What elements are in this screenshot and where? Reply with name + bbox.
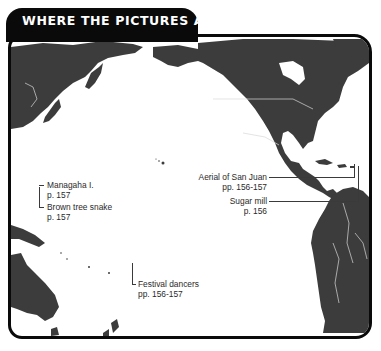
land-new-zealand xyxy=(111,319,119,333)
callout-festival-dancers: Festival dancers pp. 156-157 xyxy=(138,279,199,299)
callout-line-sugar-mill-vertical xyxy=(358,166,359,202)
land-cuba xyxy=(315,159,333,165)
callout-san-juan-title: Aerial of San Juan xyxy=(187,172,267,182)
callout-sugar-mill-pages: p. 156 xyxy=(207,206,267,216)
land-asia xyxy=(11,41,143,129)
callout-line-managaha-to-snake xyxy=(39,187,40,207)
land-alaska xyxy=(153,45,198,67)
callout-tick-snake xyxy=(39,207,44,208)
callout-line-san-juan-vertical xyxy=(354,164,355,178)
land-hawaii xyxy=(162,162,165,165)
callout-snake-pages: p. 157 xyxy=(47,212,112,222)
callout-snake-title: Brown tree snake xyxy=(47,202,112,212)
callout-managaha-title: Managaha I. xyxy=(47,180,94,190)
land-australia xyxy=(11,253,59,321)
callout-line-san-juan xyxy=(269,177,354,178)
callout-sugar-mill-title: Sugar mill xyxy=(207,196,267,206)
callout-line-festival xyxy=(132,263,133,284)
callout-festival-title: Festival dancers xyxy=(138,279,199,289)
land-hispaniola xyxy=(337,164,347,168)
land-new-guinea xyxy=(11,225,45,247)
callout-tick-managaha xyxy=(39,185,44,186)
callout-managaha-pages: p. 157 xyxy=(47,190,94,200)
callout-brown-tree-snake: Brown tree snake p. 157 xyxy=(47,202,112,222)
callout-festival-pages: pp. 156-157 xyxy=(138,289,199,299)
map-panel: Managaha I. p. 157 Brown tree snake p. 1… xyxy=(8,34,372,339)
land-south-america xyxy=(311,187,369,333)
header-title: WHERE THE PICTURES ARE xyxy=(22,13,223,28)
map-figure: Managaha I. p. 157 Brown tree snake p. 1… xyxy=(0,0,381,351)
callout-aerial-san-juan: Aerial of San Juan pp. 156-157 xyxy=(187,172,267,192)
callout-sugar-mill: Sugar mill p. 156 xyxy=(207,196,267,216)
callout-san-juan-pages: pp. 156-157 xyxy=(187,182,267,192)
callout-tick-festival xyxy=(132,284,136,285)
callout-line-sugar-mill xyxy=(269,201,358,202)
callout-managaha: Managaha I. p. 157 xyxy=(47,180,94,200)
